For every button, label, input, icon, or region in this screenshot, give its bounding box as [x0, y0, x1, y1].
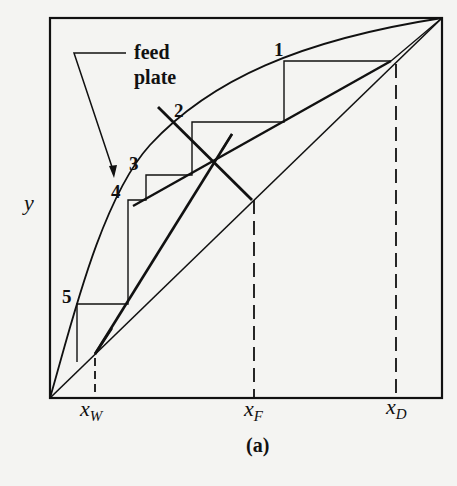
feed-plate-label-line2: plate	[134, 66, 176, 89]
q-line	[158, 107, 252, 200]
feed-plate-label-line1: feed	[134, 41, 170, 63]
feed-plate-leader	[74, 53, 126, 173]
plate-5-label: 5	[62, 286, 72, 307]
plate-2-label: 2	[174, 100, 184, 121]
rect-line-to-top	[391, 18, 442, 61]
plate-4-label: 4	[111, 181, 121, 202]
stage-steps	[77, 61, 391, 362]
plate-1-label: 1	[274, 39, 284, 60]
mccabe-thiele-diagram: 1 2 3 4 5 feed plate y xW xF xD (a)	[0, 0, 457, 486]
xw-label: xW	[79, 396, 104, 424]
figure-caption: (a)	[246, 434, 269, 457]
plate-3-label: 3	[129, 153, 139, 174]
xf-label: xF	[243, 396, 264, 424]
y-axis-label: y	[22, 190, 34, 215]
feed-plate-arrowhead	[109, 165, 117, 178]
